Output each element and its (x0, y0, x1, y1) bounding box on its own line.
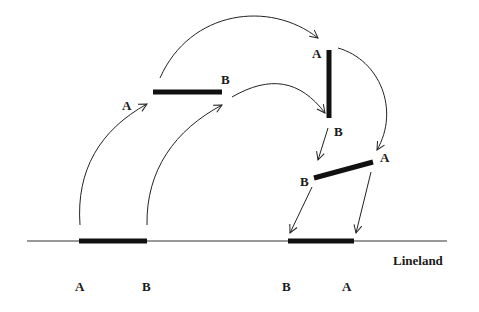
arrow-b-rotate-down (318, 128, 328, 160)
arrow-a-rotate-down (338, 48, 387, 150)
arrow-b-drop (290, 187, 312, 233)
arrow-a-drop (356, 172, 371, 233)
label-slanted-b: B (300, 174, 309, 189)
arrow-a-lift (80, 104, 147, 225)
bottom-label-b-original: B (142, 279, 151, 294)
label-lifted-b: B (221, 72, 230, 87)
arrow-a-rotate-up (160, 16, 318, 78)
bottom-label-a-reflected: A (342, 279, 352, 294)
bottom-label-b-reflected: B (282, 279, 291, 294)
label-vertical-a: A (312, 46, 322, 61)
lineland-reflection-diagram: A B A B A B Lineland A B B A (0, 0, 479, 312)
arrow-b-rotate-up (232, 84, 325, 113)
label-vertical-b: B (334, 124, 343, 139)
segment-slanted (314, 162, 373, 178)
lineland-caption: Lineland (393, 253, 444, 268)
label-slanted-a: A (380, 150, 390, 165)
bottom-label-a-original: A (75, 279, 85, 294)
label-lifted-a: A (122, 98, 132, 113)
arrow-b-lift (147, 105, 222, 225)
